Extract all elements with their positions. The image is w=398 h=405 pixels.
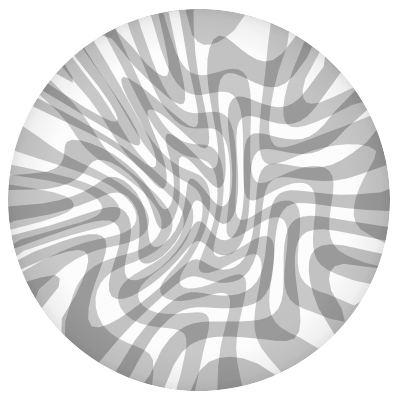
image-canvas: Twisted Striped Sphere Grayscale sphere …	[0, 0, 398, 405]
limb-shading	[8, 9, 390, 391]
sphere-body	[8, 9, 390, 391]
sphere-illustration: Twisted Striped Sphere Grayscale sphere …	[0, 0, 398, 405]
